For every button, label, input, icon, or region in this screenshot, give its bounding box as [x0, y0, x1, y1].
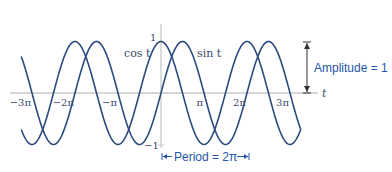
- amplitude-label: Amplitude = 1: [314, 61, 388, 75]
- x-tick-label: −3π: [10, 97, 32, 108]
- sin-label: sin t: [197, 47, 222, 60]
- amplitude-arrowhead-bottom: [304, 86, 310, 92]
- y-tick-label-top: 1: [150, 32, 156, 43]
- x-tick-label: 3π: [276, 97, 289, 108]
- x-tick-label: 2π: [233, 97, 246, 108]
- cos-label: cos t: [124, 47, 151, 60]
- x-axis-label: t: [322, 87, 327, 100]
- x-tick-label: π: [196, 97, 203, 108]
- amplitude-arrowhead-top: [304, 43, 310, 49]
- trig-graph: −3π−2π−ππ2π3π 1 −1 cos t sin t t Amplitu…: [0, 0, 392, 172]
- period-arrowhead-right: [244, 154, 248, 159]
- period-arrowhead-left: [163, 154, 167, 159]
- period-label: Period = 2π: [174, 150, 237, 164]
- y-tick-label-bottom: −1: [144, 140, 159, 151]
- x-tick-label: −2π: [53, 97, 75, 108]
- x-tick-label: −π: [102, 97, 117, 108]
